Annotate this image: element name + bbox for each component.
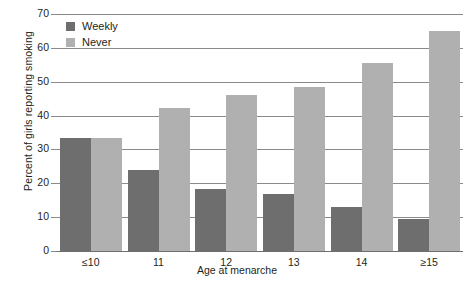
bar-never xyxy=(429,31,460,251)
y-tick-label: 40 xyxy=(18,110,49,121)
y-tick-label: 10 xyxy=(18,211,49,222)
y-tick-label: 50 xyxy=(18,76,49,87)
legend-swatch-icon xyxy=(66,22,75,31)
bar-never xyxy=(362,63,393,251)
x-axis-line xyxy=(57,251,463,252)
legend-item: Weekly xyxy=(66,18,118,34)
bar-never xyxy=(294,87,325,251)
bar-weekly xyxy=(398,219,429,251)
bar-chart: Percent of girls reporting smoking 01020… xyxy=(0,0,474,283)
bar-weekly xyxy=(60,138,91,251)
plot-area xyxy=(57,14,463,252)
bar-group xyxy=(128,14,190,251)
legend-label: Never xyxy=(82,36,111,48)
bar-group xyxy=(263,14,325,251)
bar-weekly xyxy=(263,194,294,251)
y-tick-label: 20 xyxy=(18,177,49,188)
bar-never xyxy=(159,108,190,251)
bar-group xyxy=(398,14,460,251)
bar-weekly xyxy=(128,170,159,251)
bar-never xyxy=(91,138,122,251)
legend-label: Weekly xyxy=(82,20,118,32)
bar-never xyxy=(226,95,257,251)
bar-group xyxy=(331,14,393,251)
legend-swatch-icon xyxy=(66,38,75,47)
bar-group xyxy=(195,14,257,251)
legend: WeeklyNever xyxy=(66,18,118,50)
y-tick-label: 70 xyxy=(18,8,49,19)
bar-weekly xyxy=(195,189,226,251)
x-axis-title: Age at menarche xyxy=(0,264,474,276)
legend-item: Never xyxy=(66,34,118,50)
bar-weekly xyxy=(331,207,362,251)
y-tick-label: 30 xyxy=(18,143,49,154)
y-tick-label: 0 xyxy=(18,245,49,256)
y-tick-label: 60 xyxy=(18,42,49,53)
